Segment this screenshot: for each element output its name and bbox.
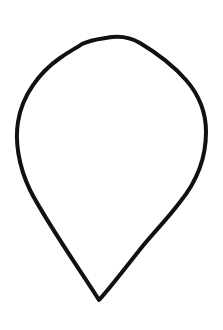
background <box>0 0 223 330</box>
drawing-canvas <box>0 0 223 330</box>
